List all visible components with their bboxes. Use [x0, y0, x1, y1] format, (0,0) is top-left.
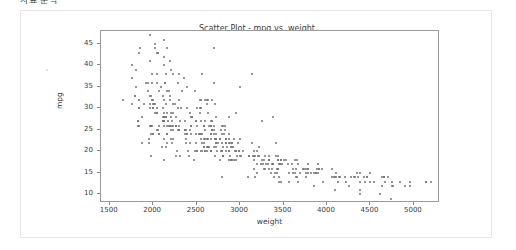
scatter-point [268, 159, 270, 161]
scatter-point [242, 150, 244, 152]
scatter-point [222, 155, 224, 157]
scatter-point [178, 125, 180, 127]
x-tick-mark [239, 202, 240, 205]
scatter-point [171, 120, 173, 122]
scatter-point [271, 168, 273, 170]
x-tick-mark [369, 202, 370, 205]
scatter-point [235, 150, 237, 152]
scatter-point [165, 103, 167, 105]
scatter-point [254, 155, 256, 157]
scatter-point [203, 142, 205, 144]
scatter-point [238, 150, 240, 152]
scatter-point [296, 159, 298, 161]
x-tick-mark [283, 202, 284, 205]
scatter-point [277, 155, 279, 157]
y-tick-label: 20 [69, 146, 93, 154]
scatter-point [163, 159, 165, 161]
scatter-point [141, 142, 143, 144]
scatter-point [315, 172, 317, 174]
scatter-point [253, 159, 255, 161]
scatter-point [387, 176, 389, 178]
scatter-point [166, 112, 168, 114]
scatter-point [163, 138, 165, 140]
scatter-point [305, 176, 307, 178]
scatter-point [201, 73, 203, 75]
scatter-point [224, 129, 226, 131]
scatter-point [221, 150, 223, 152]
scatter-point [345, 181, 347, 183]
scatter-point [171, 142, 173, 144]
scatter-point [166, 90, 168, 92]
scatter-point [334, 189, 336, 191]
x-tick-label: 1500 [89, 206, 129, 214]
scatter-point [148, 138, 150, 140]
scatter-point [153, 103, 155, 105]
scatter-point [299, 172, 301, 174]
scatter-point [354, 176, 356, 178]
scatter-point [139, 47, 141, 49]
scatter-point [263, 168, 265, 170]
scatter-point [180, 107, 182, 109]
scatter-point [235, 112, 237, 114]
scatter-point [291, 163, 293, 165]
scatter-point [288, 181, 290, 183]
scatter-point [258, 146, 260, 148]
chart-card: Scatter Plot - mpg vs. weight mpg 101520… [20, 10, 492, 238]
scatter-point [313, 185, 315, 187]
scatter-point [373, 181, 375, 183]
scatter-point [302, 168, 304, 170]
stray-speck [46, 69, 48, 71]
y-tick-label: 25 [69, 125, 93, 133]
scatter-point [307, 168, 309, 170]
scatter-point [261, 120, 263, 122]
scatter-point [147, 90, 149, 92]
scatter-point [158, 125, 160, 127]
scatter-point [288, 172, 290, 174]
scatter-point [316, 168, 318, 170]
scatter-point [131, 64, 133, 66]
scatter-point [190, 116, 192, 118]
scatter-point [219, 159, 221, 161]
scatter-point [204, 120, 206, 122]
scatter-point [166, 142, 168, 144]
scatter-point [337, 181, 339, 183]
scatter-point [294, 172, 296, 174]
scatter-point [154, 43, 156, 45]
scatter-point [149, 34, 151, 36]
scatter-point [196, 150, 198, 152]
scatter-point [210, 150, 212, 152]
scatter-point [175, 155, 177, 157]
scatter-point [163, 112, 165, 114]
scatter-point [177, 82, 179, 84]
scatter-point [170, 69, 172, 71]
scatter-point [321, 168, 323, 170]
scatter-point [178, 99, 180, 101]
x-axis-label: weight [100, 217, 439, 226]
scatter-point [135, 86, 137, 88]
scatter-point [256, 172, 258, 174]
scatter-point [228, 150, 230, 152]
scatter-point [163, 120, 165, 122]
scatter-point [179, 120, 181, 122]
scatter-point [163, 99, 165, 101]
scatter-point [151, 125, 153, 127]
scatter-point [248, 155, 250, 157]
scatter-point [165, 116, 167, 118]
scatter-point [285, 159, 287, 161]
scatter-point [220, 129, 222, 131]
scatter-point [162, 95, 164, 97]
scatter-point [409, 185, 411, 187]
y-tick-label: 10 [69, 189, 93, 197]
scatter-point [170, 116, 172, 118]
x-tick-label: 4500 [349, 206, 389, 214]
scatter-point [156, 107, 158, 109]
scatter-point [270, 172, 272, 174]
scatter-point [307, 172, 309, 174]
scatter-point [190, 125, 192, 127]
scatter-point [158, 90, 160, 92]
scatter-point [156, 112, 158, 114]
scatter-point [253, 150, 255, 152]
x-tick-label: 4000 [306, 206, 346, 214]
scatter-point [331, 168, 333, 170]
scatter-point [268, 155, 270, 157]
